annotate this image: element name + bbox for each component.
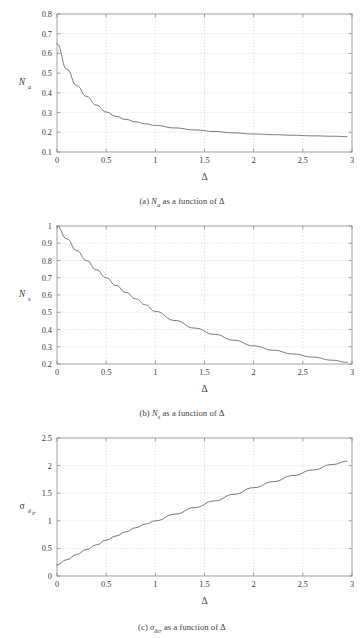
- svg-text:1.5: 1.5: [199, 368, 209, 377]
- svg-text:0.5: 0.5: [42, 544, 52, 553]
- svg-text:0: 0: [55, 368, 59, 377]
- subfigure-c: 00.511.522.5300.511.522.5Δσδtr (c) σδtr …: [0, 424, 364, 638]
- svg-text:σ: σ: [19, 501, 24, 511]
- caption-b: (b) Ns as a function of Δ: [0, 408, 364, 422]
- subfigure-a: 00.511.522.530.10.20.30.40.50.60.70.8ΔNa…: [0, 0, 364, 212]
- svg-text:Δ: Δ: [201, 172, 207, 182]
- svg-text:N: N: [18, 289, 26, 299]
- svg-text:0.6: 0.6: [42, 49, 52, 58]
- svg-text:0.3: 0.3: [42, 343, 52, 352]
- svg-text:2.5: 2.5: [298, 580, 308, 589]
- svg-text:Δ: Δ: [201, 596, 207, 606]
- svg-text:1: 1: [153, 580, 157, 589]
- svg-text:0.5: 0.5: [101, 580, 111, 589]
- caption-c-suffix: as a function of Δ: [164, 622, 226, 632]
- svg-text:0.8: 0.8: [42, 10, 52, 19]
- chart-a: 00.511.522.530.10.20.30.40.50.60.70.8ΔNa: [0, 0, 364, 182]
- chart-b: 00.511.522.530.20.30.40.50.60.70.80.91ΔN…: [0, 212, 364, 394]
- svg-text:2.5: 2.5: [298, 156, 308, 165]
- svg-text:1.5: 1.5: [42, 489, 52, 498]
- svg-text:N: N: [18, 77, 26, 87]
- subfigure-b: 00.511.522.530.20.30.40.50.60.70.80.91ΔN…: [0, 212, 364, 424]
- svg-text:0.8: 0.8: [42, 257, 52, 266]
- svg-text:2.5: 2.5: [42, 434, 52, 443]
- svg-text:0.1: 0.1: [42, 148, 52, 157]
- svg-text:1: 1: [153, 156, 157, 165]
- svg-text:2.5: 2.5: [298, 368, 308, 377]
- caption-b-subscript: s: [158, 413, 161, 420]
- svg-text:3: 3: [350, 580, 354, 589]
- svg-text:0.7: 0.7: [42, 274, 52, 283]
- svg-text:1.5: 1.5: [199, 580, 209, 589]
- caption-a-suffix: as a function of Δ: [163, 196, 225, 206]
- svg-text:0.4: 0.4: [42, 326, 53, 335]
- svg-text:2: 2: [252, 580, 256, 589]
- svg-text:2: 2: [252, 368, 256, 377]
- svg-text:0.7: 0.7: [42, 30, 52, 39]
- plot-area-a: 00.511.522.530.10.20.30.40.50.60.70.8ΔNa: [0, 0, 364, 182]
- svg-text:3: 3: [350, 368, 354, 377]
- figure-container: 00.511.522.530.10.20.30.40.50.60.70.8ΔNa…: [0, 0, 364, 638]
- svg-text:0.5: 0.5: [101, 156, 111, 165]
- svg-text:0.5: 0.5: [42, 69, 52, 78]
- caption-c: (c) σδtr as a function of Δ: [0, 622, 364, 636]
- caption-b-suffix: as a function of Δ: [162, 408, 224, 418]
- svg-text:0.4: 0.4: [42, 89, 53, 98]
- svg-text:0.5: 0.5: [101, 368, 111, 377]
- caption-c-prefix: (c): [138, 622, 148, 632]
- svg-text:0.5: 0.5: [42, 308, 52, 317]
- svg-text:s: s: [28, 295, 31, 302]
- svg-text:0.2: 0.2: [42, 360, 52, 369]
- svg-text:2: 2: [48, 462, 52, 471]
- svg-text:1.5: 1.5: [199, 156, 209, 165]
- svg-text:0: 0: [48, 572, 52, 581]
- svg-text:1: 1: [153, 368, 157, 377]
- svg-text:tr: tr: [32, 510, 36, 516]
- svg-text:Δ: Δ: [201, 384, 207, 394]
- plot-area-c: 00.511.522.5300.511.522.5Δσδtr: [0, 424, 364, 606]
- plot-area-b: 00.511.522.530.20.30.40.50.60.70.80.91ΔN…: [0, 212, 364, 394]
- svg-text:0: 0: [55, 580, 59, 589]
- caption-a: (a) Na as a function of Δ: [0, 196, 364, 210]
- svg-text:1: 1: [48, 222, 52, 231]
- caption-a-subscript: a: [157, 201, 160, 208]
- svg-text:0.2: 0.2: [42, 128, 52, 137]
- chart-c: 00.511.522.5300.511.522.5Δσδtr: [0, 424, 364, 606]
- caption-b-prefix: (b): [139, 408, 149, 418]
- svg-text:0.3: 0.3: [42, 109, 52, 118]
- svg-text:1: 1: [48, 517, 52, 526]
- svg-text:0.9: 0.9: [42, 239, 52, 248]
- caption-a-prefix: (a): [139, 196, 149, 206]
- svg-text:2: 2: [252, 156, 256, 165]
- svg-text:a: a: [28, 83, 31, 90]
- svg-text:3: 3: [350, 156, 354, 165]
- svg-text:0: 0: [55, 156, 59, 165]
- svg-text:0.6: 0.6: [42, 291, 52, 300]
- caption-c-subscript: δtr: [154, 627, 161, 634]
